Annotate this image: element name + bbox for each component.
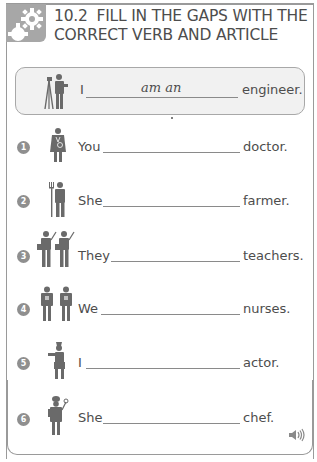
title-line-1: FILL IN THE GAPS WITH THE: [96, 7, 307, 25]
actor-figure-icon: [47, 342, 71, 380]
farmer-figure-icon: [46, 180, 68, 218]
exercise-badge-3: 3: [17, 250, 30, 263]
example-subject: I: [80, 82, 84, 97]
header-icon-box: [6, 4, 46, 42]
decorative-dot: [171, 117, 173, 119]
exercise-title: 10.2 FILL IN THE GAPS WITH THE CORRECT V…: [54, 7, 314, 45]
exercise-badge-4: 4: [17, 303, 30, 316]
exercise-subject-4: We: [78, 301, 98, 316]
exercise-bottom-border: [7, 380, 313, 455]
example-noun: engineer.: [242, 82, 303, 97]
teachers-figure-icon: [36, 230, 80, 268]
answer-blank-4[interactable]: [101, 314, 240, 315]
speaker-icon[interactable]: [288, 428, 306, 442]
engineer-figure-icon: [44, 73, 70, 111]
exercise-subject-2: She: [78, 193, 103, 208]
doctor-figure-icon: [47, 127, 69, 163]
exercise-badge-5: 5: [17, 357, 30, 370]
example-blank-line: [86, 97, 238, 98]
exercise-subject-5: I: [78, 355, 82, 370]
title-line-2: CORRECT VERB AND ARTICLE: [54, 26, 314, 45]
exercise-subject-3: They: [78, 248, 110, 263]
exercise-subject-1: You: [78, 139, 100, 154]
exercise-noun-5: actor.: [243, 355, 279, 370]
answer-blank-1[interactable]: [103, 152, 240, 153]
nurses-figure-icon: [38, 286, 76, 322]
exercise-noun-2: farmer.: [243, 193, 290, 208]
exercise-noun-4: nurses.: [243, 301, 291, 316]
exercise-number: 10.2: [54, 7, 88, 25]
example-answer: am an: [141, 80, 181, 95]
answer-blank-5[interactable]: [86, 368, 240, 369]
exercise-noun-1: doctor.: [243, 139, 288, 154]
answer-blank-2[interactable]: [103, 206, 240, 207]
exercise-noun-3: teachers.: [243, 248, 304, 263]
gears-icon: [6, 4, 46, 42]
exercise-badge-2: 2: [17, 195, 30, 208]
exercise-badge-1: 1: [17, 141, 30, 154]
answer-blank-3[interactable]: [111, 261, 240, 262]
